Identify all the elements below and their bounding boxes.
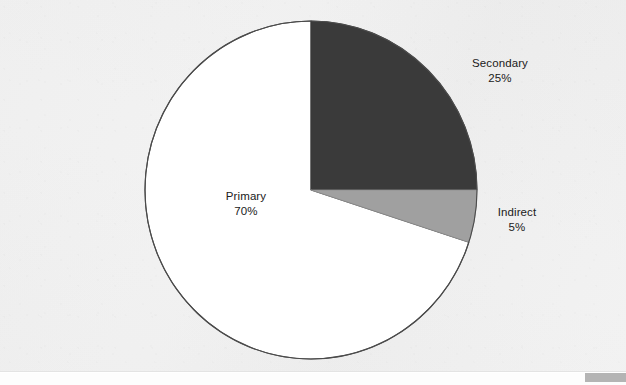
pie-label-indirect-value: 5%	[455, 220, 579, 235]
page-footer-band	[0, 373, 626, 385]
pie-slice-secondary[interactable]	[311, 21, 477, 190]
pie-label-secondary-value: 25%	[438, 71, 562, 86]
pie-label-indirect-name: Indirect	[455, 205, 579, 220]
page-corner-marker	[585, 373, 626, 382]
pie-label-primary-name: Primary	[186, 189, 306, 204]
pie-label-secondary-name: Secondary	[438, 56, 562, 71]
pie-label-indirect: Indirect 5%	[455, 205, 579, 235]
footer-divider	[0, 371, 626, 373]
chart-page: Secondary 25% Indirect 5% Primary 70%	[0, 0, 626, 385]
pie-label-secondary: Secondary 25%	[438, 56, 562, 86]
pie-label-primary-value: 70%	[186, 204, 306, 219]
pie-label-primary: Primary 70%	[186, 189, 306, 219]
